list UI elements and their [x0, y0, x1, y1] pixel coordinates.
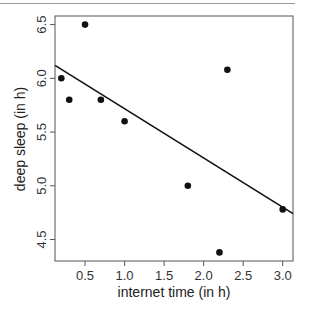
data-point — [121, 118, 128, 125]
data-point — [66, 97, 73, 104]
x-tick-label: 2.5 — [234, 268, 252, 283]
data-point — [82, 21, 89, 28]
regression-line-group — [55, 65, 293, 213]
data-point — [98, 97, 105, 104]
x-tick-label: 0.5 — [76, 268, 94, 283]
x-tick-label: 2.0 — [195, 268, 213, 283]
data-point — [185, 182, 192, 189]
data-point — [216, 249, 223, 256]
data-point — [58, 75, 65, 82]
regression-line — [55, 65, 293, 213]
x-tick-label: 1.5 — [155, 268, 173, 283]
y-tick-label: 6.5 — [34, 16, 49, 34]
data-point — [279, 206, 286, 213]
axes: 0.51.01.52.02.53.04.55.05.56.06.5 — [34, 16, 293, 283]
y-tick-label: 6.0 — [34, 69, 49, 87]
plot-frame — [55, 16, 293, 261]
scatter-chart: 0.51.01.52.02.53.04.55.05.56.06.5 intern… — [0, 0, 309, 313]
data-point — [224, 66, 231, 73]
y-tick-label: 5.0 — [34, 177, 49, 195]
y-axis-label: deep sleep (in h) — [12, 87, 28, 191]
x-tick-label: 1.0 — [116, 268, 134, 283]
y-tick-label: 4.5 — [34, 230, 49, 248]
x-axis-label: internet time (in h) — [118, 284, 231, 300]
x-tick-label: 3.0 — [274, 268, 292, 283]
y-tick-label: 5.5 — [34, 123, 49, 141]
